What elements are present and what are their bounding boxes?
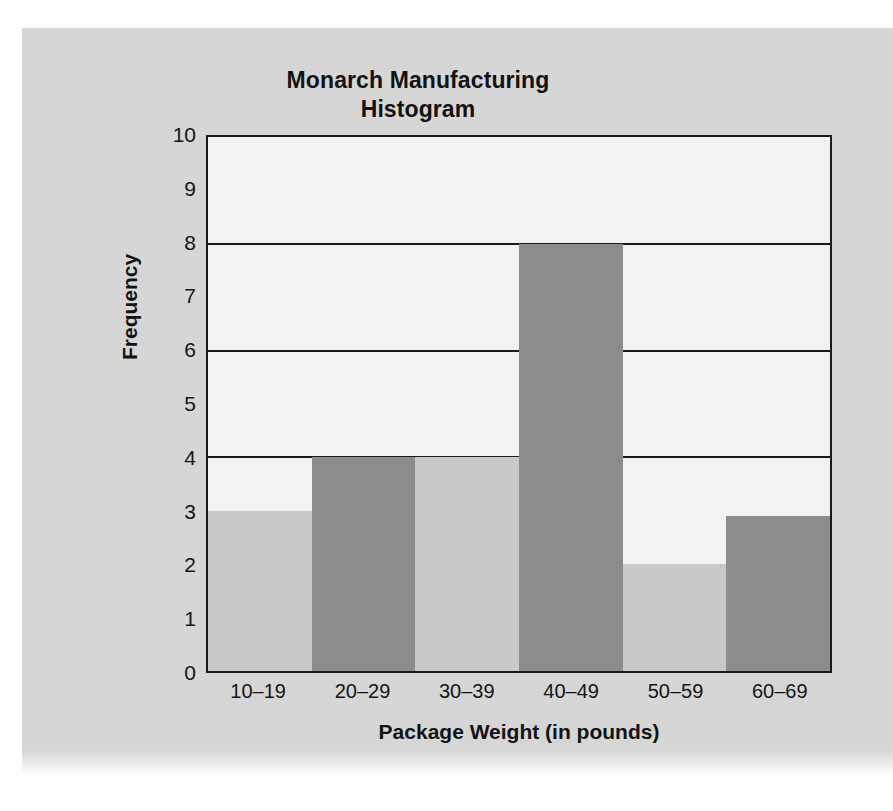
plot-area	[206, 135, 832, 673]
y-axis-tick-10: 10	[154, 123, 196, 147]
bar-40–49	[519, 244, 623, 671]
y-axis-tick-5: 5	[154, 392, 196, 416]
bar-20–29	[312, 457, 416, 671]
y-axis-tick-8: 8	[154, 231, 196, 255]
y-axis-tick-7: 7	[154, 284, 196, 308]
bar-10–19	[208, 511, 312, 671]
x-axis-tick-labels: 10–1920–2930–3940–4950–5960–69	[206, 680, 832, 703]
x-axis-tick-60–69: 60–69	[728, 680, 832, 703]
x-axis-tick-10–19: 10–19	[206, 680, 310, 703]
chart-figure: Monarch Manufacturing Histogram Frequenc…	[22, 28, 893, 776]
bar-60–69	[726, 516, 830, 671]
x-axis-tick-20–29: 20–29	[310, 680, 414, 703]
y-axis-tick-2: 2	[154, 553, 196, 577]
x-axis-title: Package Weight (in pounds)	[206, 720, 832, 744]
y-axis-tick-9: 9	[154, 177, 196, 201]
bar-series	[208, 137, 830, 671]
bar-30–39	[415, 457, 519, 671]
y-axis-tick-4: 4	[154, 446, 196, 470]
chart-title-line-2: Histogram	[22, 95, 814, 124]
y-axis-tick-6: 6	[154, 338, 196, 362]
y-axis-tick-labels: 012345678910	[144, 135, 196, 673]
y-axis-title: Frequency	[118, 334, 142, 360]
y-axis-tick-1: 1	[154, 607, 196, 631]
x-axis-tick-30–39: 30–39	[415, 680, 519, 703]
chart-title-line-1: Monarch Manufacturing	[22, 66, 814, 95]
x-axis-tick-50–59: 50–59	[623, 680, 727, 703]
chart-title: Monarch Manufacturing Histogram	[22, 66, 814, 125]
bar-50–59	[623, 564, 727, 671]
x-axis-tick-40–49: 40–49	[519, 680, 623, 703]
y-axis-tick-0: 0	[154, 661, 196, 685]
y-axis-tick-3: 3	[154, 500, 196, 524]
